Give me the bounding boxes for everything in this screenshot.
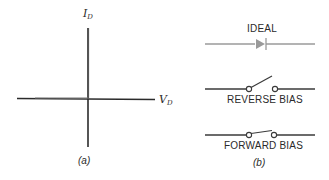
reverse-switch-arm-open [251, 76, 272, 88]
x-axis-label: VD [159, 93, 173, 107]
reverse-bias-label: REVERSE BIAS [227, 94, 303, 105]
diode-triangle-icon [256, 39, 265, 49]
forward-contact-right [271, 132, 276, 137]
x-axis-symbol: V [159, 93, 167, 106]
x-axis-subscript: D [167, 99, 173, 107]
forward-contact-left [246, 132, 251, 137]
reverse-contact-left [246, 86, 251, 91]
y-axis-label: ID [83, 7, 93, 21]
ideal-label: IDEAL [247, 23, 277, 34]
reverse-bias-switch [205, 76, 315, 92]
forward-bias-switch [205, 131, 315, 138]
caption-a: (a) [78, 155, 90, 166]
forward-bias-label: FORWARD BIAS [224, 140, 303, 151]
diagram-canvas [0, 0, 329, 180]
forward-switch-arm-closed [251, 131, 272, 134]
iv-axes [17, 28, 155, 147]
caption-b: (b) [253, 157, 265, 168]
reverse-contact-right [272, 86, 277, 91]
x-axis [17, 99, 155, 100]
ideal-diode-symbol [205, 38, 315, 50]
y-axis-subscript: D [87, 13, 93, 21]
